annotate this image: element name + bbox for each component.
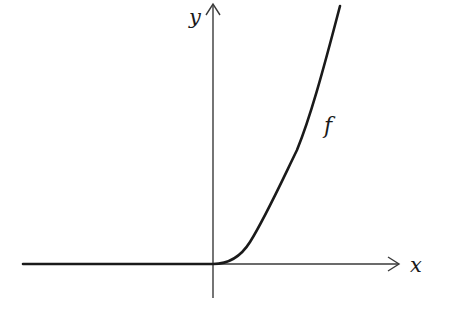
x-axis-label: x	[410, 253, 422, 277]
plot-canvas: y x f	[0, 0, 450, 313]
y-axis-label: y	[188, 5, 202, 29]
curve-f	[23, 6, 340, 264]
curve-label-f: f	[322, 113, 336, 138]
